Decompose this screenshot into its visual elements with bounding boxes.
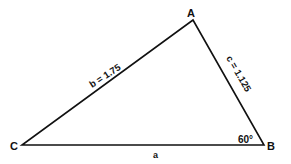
triangle-svg: A B C a b = 1.75 c = 1.125 60°	[0, 0, 291, 164]
vertex-a-label: A	[187, 7, 195, 19]
side-c-label: c = 1.125	[224, 54, 254, 95]
vertex-b-label: B	[267, 140, 275, 152]
side-a-label: a	[153, 150, 159, 160]
vertex-c-label: C	[10, 140, 18, 152]
angle-b-label: 60°	[238, 134, 253, 145]
triangle-diagram: A B C a b = 1.75 c = 1.125 60°	[0, 0, 291, 164]
triangle-abc	[22, 20, 264, 145]
